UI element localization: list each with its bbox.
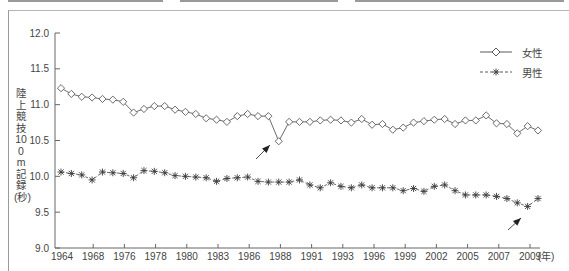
legend-label-female: 女性 <box>522 45 542 60</box>
asterisk-marker-icon <box>317 184 324 191</box>
diamond-marker-icon <box>161 103 168 110</box>
asterisk-marker-icon <box>514 199 521 206</box>
diamond-marker-icon <box>151 103 158 110</box>
asterisk-marker-icon <box>441 181 448 188</box>
asterisk-marker-icon <box>480 67 512 77</box>
diamond-marker-icon <box>306 118 313 125</box>
asterisk-marker-icon <box>524 203 531 210</box>
asterisk-marker-icon <box>130 174 137 181</box>
x-tick-label: 2002 <box>425 251 448 262</box>
diamond-marker-icon <box>472 117 479 124</box>
x-tick-label: 1976 <box>113 251 136 262</box>
x-tick-label: 1983 <box>207 251 230 262</box>
legend-label-male: 男性 <box>522 65 542 80</box>
diamond-marker-icon <box>203 115 210 122</box>
diamond-marker-icon <box>286 118 293 125</box>
diamond-marker-icon <box>99 95 106 102</box>
x-tick-label: 1996 <box>363 251 386 262</box>
male-series-line <box>61 171 538 207</box>
asterisk-marker-icon <box>192 174 199 181</box>
diamond-marker-icon <box>57 85 64 92</box>
asterisk-marker-icon <box>420 188 427 195</box>
y-tick-label: 10.5 <box>30 135 50 146</box>
asterisk-marker-icon <box>337 183 344 190</box>
asterisk-marker-icon <box>244 174 251 181</box>
asterisk-marker-icon <box>68 170 75 177</box>
asterisk-marker-icon <box>431 183 438 190</box>
diamond-marker-icon <box>171 106 178 113</box>
asterisk-marker-icon <box>296 176 303 183</box>
asterisk-marker-icon <box>120 170 127 177</box>
legend: 女性 男性 <box>480 42 542 82</box>
asterisk-marker-icon <box>483 191 490 198</box>
asterisk-marker-icon <box>535 195 542 202</box>
legend-item-male: 男性 <box>480 62 542 82</box>
asterisk-marker-icon <box>203 174 210 181</box>
x-tick-label: 1968 <box>82 251 105 262</box>
asterisk-marker-icon <box>161 169 168 176</box>
x-tick-label: 1978 <box>144 251 167 262</box>
x-axis-unit: (年) <box>538 250 555 262</box>
asterisk-marker-icon <box>327 179 334 186</box>
y-tick-label: 12.0 <box>30 28 50 39</box>
asterisk-marker-icon <box>234 174 241 181</box>
diamond-marker-icon <box>368 121 375 128</box>
x-tick-label: 2007 <box>488 251 511 262</box>
asterisk-marker-icon <box>151 168 158 175</box>
asterisk-marker-icon <box>462 191 469 198</box>
asterisk-marker-icon <box>400 187 407 194</box>
y-tick-label: 9.5 <box>35 207 49 218</box>
asterisk-marker-icon <box>410 185 417 192</box>
asterisk-marker-icon <box>306 181 313 188</box>
asterisk-marker-icon <box>503 195 510 202</box>
diamond-marker-icon <box>78 93 85 100</box>
diamond-marker-icon <box>68 90 75 97</box>
y-tick-label: 10.0 <box>30 171 50 182</box>
diamond-marker-icon <box>410 119 417 126</box>
diamond-marker-icon <box>524 123 531 130</box>
asterisk-marker-icon <box>78 171 85 178</box>
diamond-marker-icon <box>234 113 241 120</box>
diamond-marker-icon <box>420 118 427 125</box>
y-tick-label: 11.5 <box>30 63 49 74</box>
asterisk-marker-icon <box>358 181 365 188</box>
asterisk-marker-icon <box>109 169 116 176</box>
diamond-marker-icon <box>379 120 386 127</box>
x-tick-label: 1999 <box>394 251 417 262</box>
asterisk-marker-icon <box>348 184 355 191</box>
asterisk-marker-icon <box>452 187 459 194</box>
legend-item-female: 女性 <box>480 42 542 62</box>
diamond-marker-icon <box>109 96 116 103</box>
diamond-marker-icon <box>265 113 272 120</box>
diamond-marker-icon <box>275 138 282 145</box>
diamond-marker-icon <box>317 117 324 124</box>
diamond-marker-icon <box>244 110 251 117</box>
asterisk-marker-icon <box>140 167 147 174</box>
asterisk-marker-icon <box>265 179 272 186</box>
asterisk-marker-icon <box>369 184 376 191</box>
asterisk-marker-icon <box>255 178 262 185</box>
diamond-marker-icon <box>534 127 541 134</box>
diamond-marker-icon <box>358 115 365 122</box>
asterisk-marker-icon <box>389 184 396 191</box>
asterisk-marker-icon <box>213 178 220 185</box>
diamond-marker-icon <box>400 124 407 131</box>
asterisk-marker-icon <box>472 191 479 198</box>
x-tick-label: 2005 <box>456 251 479 262</box>
y-tick-label: 9.0 <box>35 243 49 254</box>
asterisk-marker-icon <box>172 172 179 179</box>
diamond-marker-icon <box>441 115 448 122</box>
diamond-marker-icon <box>89 94 96 101</box>
diamond-marker-icon <box>192 110 199 117</box>
diamond-marker-icon <box>140 105 147 112</box>
diamond-marker-icon <box>223 118 230 125</box>
diamond-marker-icon <box>483 112 490 119</box>
diamond-marker-icon <box>389 126 396 133</box>
diamond-marker-icon <box>348 119 355 126</box>
diamond-marker-icon <box>451 120 458 127</box>
y-tick-label: 11.0 <box>30 99 49 110</box>
diamond-marker-icon <box>337 117 344 124</box>
diamond-marker-icon <box>327 116 334 123</box>
diamond-marker-icon <box>254 113 261 120</box>
